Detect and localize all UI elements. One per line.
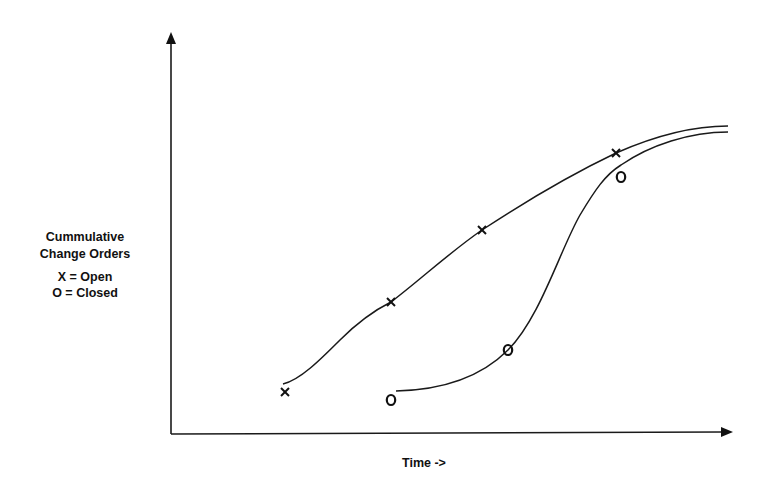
x-marker-icon	[612, 149, 620, 157]
y-axis-label-line1: Cummulative	[14, 229, 156, 246]
o-marker-icon	[617, 172, 625, 182]
y-axis-label-line2: Change Orders	[14, 246, 156, 263]
x-axis-label: Time ->	[402, 456, 446, 470]
closed-series-line	[396, 132, 728, 391]
y-axis	[166, 32, 176, 434]
open-markers	[281, 149, 620, 396]
y-axis-label: Cummulative Change Orders X = Open O = C…	[14, 229, 156, 301]
x-axis-arrow-icon	[721, 427, 733, 437]
legend: X = Open O = Closed	[14, 269, 156, 301]
x-axis	[171, 427, 733, 437]
x-marker-icon	[387, 298, 395, 306]
legend-open: X = Open	[14, 269, 156, 285]
y-axis-arrow-icon	[166, 32, 176, 44]
o-marker-icon	[387, 395, 395, 405]
closed-markers	[387, 172, 625, 405]
legend-closed: O = Closed	[14, 285, 156, 301]
x-marker-icon	[478, 226, 486, 234]
x-marker-icon	[281, 388, 289, 396]
